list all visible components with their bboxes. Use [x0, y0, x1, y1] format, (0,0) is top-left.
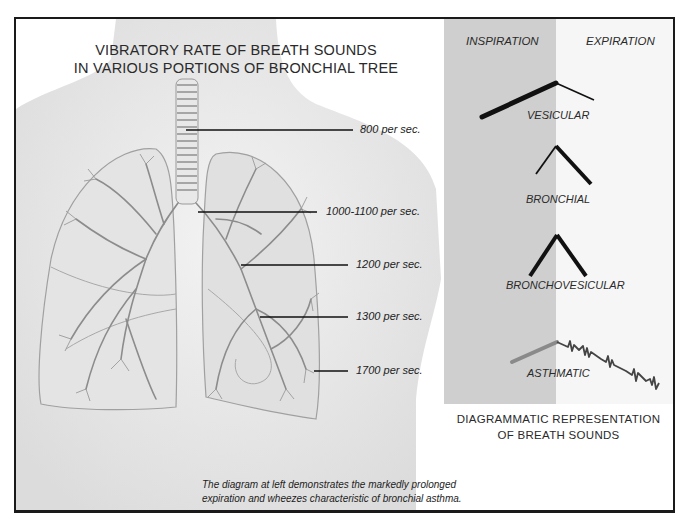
bronchovesicular-waveform [530, 235, 586, 276]
vesicular-label: VESICULAR [527, 109, 589, 121]
footnote: The diagram at left demonstrates the mar… [202, 478, 622, 506]
diagram-frame: VIBRATORY RATE OF BREATH SOUNDS IN VARIO… [14, 17, 675, 513]
footnote-line-2: expiration and wheezes characteristic of… [202, 492, 622, 506]
diagram-caption-line-2: OF BREATH SOUNDS [446, 427, 671, 443]
bronchial-waveform [536, 146, 591, 184]
diagram-caption: DIAGRAMMATIC REPRESENTATION OF BREATH SO… [446, 411, 671, 443]
footnote-line-1: The diagram at left demonstrates the mar… [202, 478, 622, 492]
diagram-caption-line-1: DIAGRAMMATIC REPRESENTATION [446, 411, 671, 427]
bronchovesicular-label: BRONCHOVESICULAR [506, 279, 625, 291]
asthmatic-label: ASTHMATIC [527, 367, 590, 379]
bronchial-label: BRONCHIAL [526, 193, 590, 205]
asthmatic-waveform [512, 341, 659, 389]
